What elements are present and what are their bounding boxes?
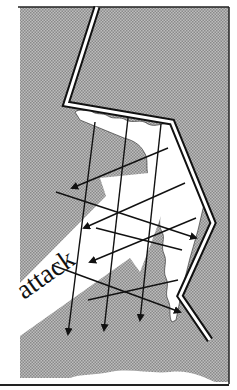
attack-diagram: attack — [0, 0, 237, 390]
diagram-canvas: attack — [0, 0, 237, 390]
